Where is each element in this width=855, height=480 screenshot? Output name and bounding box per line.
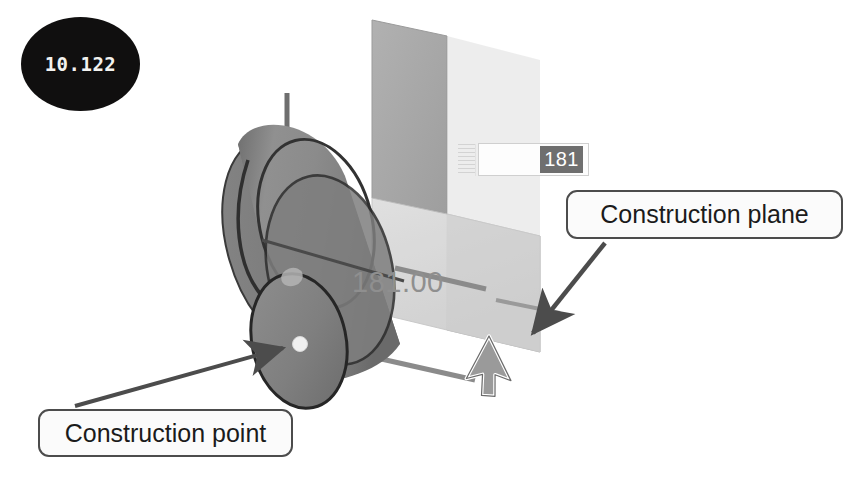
step-number-badge: 10.122 xyxy=(21,17,140,111)
callout-construction-plane: Construction plane xyxy=(566,190,843,239)
construction-point-marker[interactable] xyxy=(293,337,308,352)
callout-construction-point: Construction point xyxy=(38,409,293,457)
leader-construction-point xyxy=(75,348,283,406)
dimension-input-spinner-icon[interactable] xyxy=(458,144,476,176)
dimension-input-selected-value[interactable]: 181 xyxy=(540,146,583,173)
cad-tutorial-figure: 10.122 181.00 181 Construction plane Con… xyxy=(0,0,855,480)
dimension-input-widget[interactable]: 181 xyxy=(458,141,591,179)
leader-construction-plane xyxy=(533,243,605,333)
step-number-label: 10.122 xyxy=(45,55,117,74)
dimension-readout-label: 181.00 xyxy=(352,268,444,297)
dimension-input-field[interactable]: 181 xyxy=(478,143,589,176)
callout-construction-point-label: Construction point xyxy=(65,421,267,446)
callout-construction-plane-label: Construction plane xyxy=(600,202,808,227)
